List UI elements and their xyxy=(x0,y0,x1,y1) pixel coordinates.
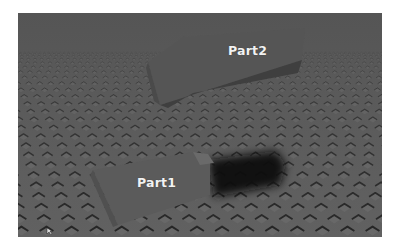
part1-label: Part1 xyxy=(137,175,176,190)
3d-viewport[interactable]: Part2 Part1 xyxy=(18,13,382,237)
part2-label: Part2 xyxy=(228,43,267,58)
scene-canvas[interactable] xyxy=(18,13,382,237)
